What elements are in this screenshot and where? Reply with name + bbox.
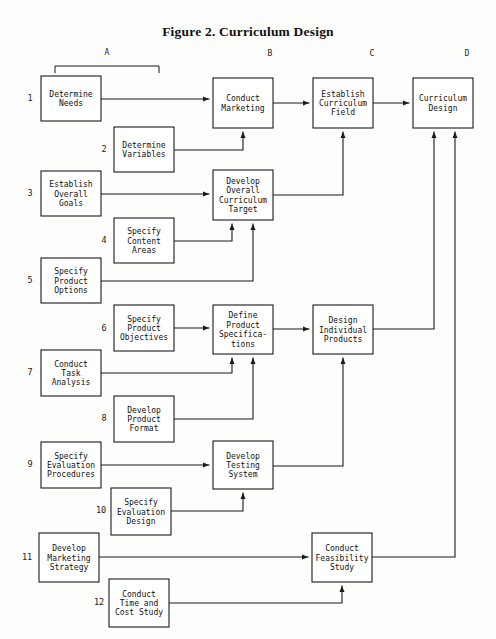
process-box-conduct-feasibility-study[interactable]: ConductFeasibilityStudy xyxy=(312,533,372,582)
process-box-conduct-time-cost-study[interactable]: ConductTime andCost Study xyxy=(109,579,169,627)
process-box-develop-product-format[interactable]: DevelopProductFormat xyxy=(114,396,174,442)
box-label-line: Conduct xyxy=(325,544,359,553)
column-header-d: D xyxy=(465,49,470,58)
box-label-line: Objectives xyxy=(120,333,168,342)
box-label-line: Specify xyxy=(54,267,88,276)
row-number-1: 1 xyxy=(27,93,32,103)
process-box-specify-evaluation-design[interactable]: SpecifyEvaluationDesign xyxy=(111,488,171,535)
box-label-line: Needs xyxy=(59,99,83,108)
process-box-determine-variables[interactable]: DetermineVariables xyxy=(114,127,174,172)
group-column-headers: ABCD xyxy=(105,48,470,58)
box-label-line: Product xyxy=(54,277,88,286)
box-label-line: Evaluation xyxy=(117,508,165,517)
process-box-specify-evaluation-procs[interactable]: SpecifyEvaluationProcedures xyxy=(41,442,101,488)
box-label-line: Define xyxy=(229,311,258,320)
box-label-line: Strategy xyxy=(50,563,89,572)
process-box-develop-testing-system[interactable]: DevelopTestingSystem xyxy=(213,441,273,489)
box-label-line: Determine xyxy=(49,90,93,99)
box-label-line: System xyxy=(229,470,258,479)
box-label-line: Specify xyxy=(127,227,161,236)
box-label-line: Curriculum xyxy=(319,99,367,108)
column-header-c: C xyxy=(370,49,375,58)
box-label-line: Content xyxy=(127,237,161,246)
connector-target-to-field xyxy=(273,132,343,195)
row-number-9: 9 xyxy=(27,459,32,469)
process-box-develop-overall-target[interactable]: DevelopOverallCurriculumTarget xyxy=(213,170,273,220)
box-label-line: Individual xyxy=(319,326,367,335)
box-label-line: Specifica- xyxy=(219,330,267,339)
box-label-line: Procedures xyxy=(47,470,95,479)
figure-page: Figure 2. Curriculum Design ABCD Determi… xyxy=(0,0,496,639)
row-number-12: 12 xyxy=(94,597,104,607)
box-label-line: Product xyxy=(127,324,161,333)
box-label-line: tions xyxy=(231,340,255,349)
row-number-5: 5 xyxy=(27,275,32,285)
row-number-11: 11 xyxy=(22,552,32,562)
connector-task-analysis-to-specs xyxy=(101,358,232,373)
process-box-develop-marketing-strategy[interactable]: DevelopMarketingStrategy xyxy=(39,533,99,582)
row-number-3: 3 xyxy=(27,188,32,198)
column-header-b: B xyxy=(268,49,273,58)
column-header-a: A xyxy=(105,48,110,57)
flowchart-canvas: ABCD DetermineNeedsDetermineVariablesCon… xyxy=(0,0,496,639)
process-box-establish-overall-goals[interactable]: EstablishOverallGoals xyxy=(41,171,101,216)
row-number-2: 2 xyxy=(101,144,106,154)
box-label-line: Format xyxy=(130,424,159,433)
box-label-line: Products xyxy=(324,335,363,344)
box-label-line: Conduct xyxy=(226,94,260,103)
connector-products-to-curriculum-design xyxy=(373,132,434,329)
process-box-conduct-marketing[interactable]: ConductMarketing xyxy=(213,78,273,128)
box-label-line: Design xyxy=(429,104,458,113)
box-label-line: Overall xyxy=(226,186,260,195)
group-a-bracket xyxy=(55,66,159,73)
box-label-line: Cost Study xyxy=(115,608,163,617)
process-box-specify-product-objectives[interactable]: SpecifyProductObjectives xyxy=(114,305,174,351)
box-label-line: Develop xyxy=(52,544,86,553)
box-label-line: Design xyxy=(329,316,358,325)
box-label-line: Options xyxy=(54,286,88,295)
box-label-line: Design xyxy=(127,517,156,526)
box-label-line: Develop xyxy=(226,177,260,186)
process-box-determine-needs[interactable]: DetermineNeeds xyxy=(41,76,101,121)
box-label-line: Target xyxy=(229,205,258,214)
process-box-curriculum-design[interactable]: CurriculumDesign xyxy=(413,78,473,128)
box-label-line: Testing xyxy=(226,461,260,470)
box-label-line: Product xyxy=(127,415,161,424)
box-label-line: Field xyxy=(331,108,355,117)
row-number-4: 4 xyxy=(101,235,106,245)
box-label-line: Analysis xyxy=(52,378,91,387)
box-label-line: Task xyxy=(61,369,80,378)
box-label-line: Specify xyxy=(54,452,88,461)
column-a-bracket xyxy=(55,66,159,73)
connector-variables-to-marketing xyxy=(174,132,243,150)
process-box-specify-product-options[interactable]: SpecifyProductOptions xyxy=(41,258,101,303)
box-label-line: Study xyxy=(330,563,354,572)
connector-content-to-target xyxy=(174,224,232,241)
box-label-line: Establish xyxy=(321,90,365,99)
process-box-design-individual-products[interactable]: DesignIndividualProducts xyxy=(313,305,373,354)
box-label-line: Product xyxy=(226,321,260,330)
row-number-7: 7 xyxy=(27,367,32,377)
box-label-line: Conduct xyxy=(122,590,156,599)
box-label-line: Establish xyxy=(49,180,93,189)
box-label-line: Marketing xyxy=(47,554,91,563)
process-box-establish-curriculum-field[interactable]: EstablishCurriculumField xyxy=(313,78,373,128)
connector-feasibility-to-curriculum xyxy=(372,132,455,557)
process-box-specify-content-areas[interactable]: SpecifyContentAreas xyxy=(114,218,174,263)
box-label-line: Develop xyxy=(226,452,260,461)
box-label-line: Variables xyxy=(122,150,166,159)
connector-eval-design-to-testing xyxy=(171,493,243,511)
box-label-line: Curriculum xyxy=(219,196,267,205)
box-label-line: Goals xyxy=(59,199,83,208)
box-label-line: Time and xyxy=(120,599,159,608)
box-label-line: Develop xyxy=(127,406,161,415)
box-label-line: Determine xyxy=(122,141,166,150)
connector-time-cost-to-feasibility xyxy=(169,586,342,603)
row-number-6: 6 xyxy=(101,323,106,333)
box-label-line: Marketing xyxy=(221,104,265,113)
process-box-define-product-specs[interactable]: DefineProductSpecifica-tions xyxy=(213,305,273,354)
box-label-line: Evaluation xyxy=(47,461,95,470)
process-box-conduct-task-analysis[interactable]: ConductTaskAnalysis xyxy=(41,350,101,396)
connector-testing-to-products xyxy=(273,358,343,466)
box-label-line: Specify xyxy=(124,498,158,507)
